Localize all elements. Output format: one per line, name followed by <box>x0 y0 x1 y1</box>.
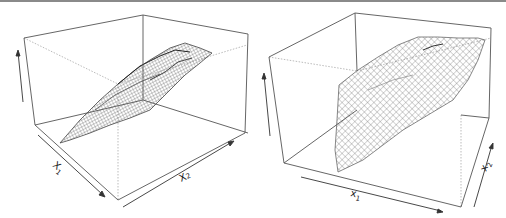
surface-mesh <box>60 43 212 143</box>
x1-axis-arrow <box>38 135 103 195</box>
x2-axis-label: x2 <box>478 159 495 174</box>
x1-axis-label: X1 <box>49 159 67 177</box>
right-plot-canvas: x1 x2 <box>253 0 506 218</box>
x2-axis-arrow <box>474 145 492 207</box>
left-surface-plot: X1 X2 <box>0 0 253 218</box>
x1-axis-label: x1 <box>349 187 362 203</box>
surface-mesh <box>335 37 485 172</box>
left-plot-canvas: X1 X2 <box>0 0 253 218</box>
z-axis-arrow <box>264 75 270 136</box>
right-surface-plot: x1 x2 <box>253 0 506 218</box>
axis-arrows <box>16 50 234 207</box>
x1-axis-arrow <box>301 177 441 211</box>
z-axis-arrow <box>18 52 23 102</box>
x2-axis-label: X2 <box>177 169 192 184</box>
